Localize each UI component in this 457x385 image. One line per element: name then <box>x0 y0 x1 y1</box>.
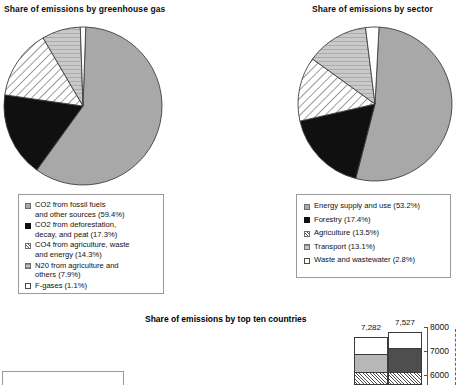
y-axis-label-6000: 6000 <box>430 370 449 380</box>
legend-item: F-gases (1.1%) <box>25 281 158 291</box>
bar-value-label: 7,527 <box>384 318 426 327</box>
pie-gas-svg <box>2 25 166 187</box>
legend-item: Forestry (17.4%) <box>304 215 445 225</box>
bar-segment-hatched <box>389 372 421 385</box>
legend-label: CO4 from agriculture, waste and energy (… <box>35 240 130 259</box>
legend-item: Agriculture (13.5%) <box>304 228 445 238</box>
y-axis-line <box>427 327 428 385</box>
legend-swatch-black-icon <box>304 217 310 223</box>
bar-stack-2[interactable] <box>388 332 422 385</box>
legend-label: CO2 from fossil fuels and other sources … <box>35 200 125 219</box>
legend-label: Forestry (17.4%) <box>314 215 371 225</box>
legend-swatch-hatched-icon <box>304 231 310 237</box>
panel-emissions-by-sector: Share of emissions by sector Energy supp… <box>288 0 457 290</box>
y-axis-label-7000: 7000 <box>430 346 449 356</box>
legend-item: CO4 from agriculture, waste and energy (… <box>25 240 158 259</box>
legend-label: N20 from agriculture and others (7.9%) <box>35 261 119 280</box>
bar-segment-hatched <box>355 372 387 385</box>
legend-item: CO2 from deforestation, decay, and peat … <box>25 220 158 239</box>
legend-swatch-dotted-icon <box>25 263 31 269</box>
legend-sector: Energy supply and use (53.2%) Forestry (… <box>296 194 451 278</box>
legend-label: CO2 from deforestation, decay, and peat … <box>35 220 117 239</box>
y-axis-label-8000: 8000 <box>430 322 449 332</box>
legend-swatch-hatched-icon <box>25 243 31 249</box>
bar-chart-title: Share of emissions by top ten countries <box>145 314 307 324</box>
legend-item: CO2 from fossil fuels and other sources … <box>25 200 158 219</box>
y-axis-tick-6000 <box>424 375 427 376</box>
bar-stack-1[interactable] <box>354 337 388 385</box>
bar-segment-light-gray <box>355 354 387 372</box>
legend-greenhouse-gas: CO2 from fossil fuels and other sources … <box>18 194 164 294</box>
legend-swatch-gray-icon <box>25 203 31 209</box>
pie-chart-sector <box>296 25 456 183</box>
pie-sector-svg <box>296 25 456 183</box>
legend-swatch-white-icon <box>304 258 310 264</box>
legend-item: Transport (13.1%) <box>304 242 445 252</box>
bar-segment-white <box>389 333 421 348</box>
legend-item: N20 from agriculture and others (7.9%) <box>25 261 158 280</box>
bar-segment-dark-gray <box>389 348 421 372</box>
panel-emissions-by-top-ten-countries: Share of emissions by top ten countries … <box>0 305 457 380</box>
pie-chart-greenhouse-gas <box>2 25 166 187</box>
panel-emissions-by-greenhouse-gas: Share of emissions by greenhouse gas CO2… <box>0 0 228 305</box>
legend-label: Energy supply and use (53.2%) <box>314 201 420 211</box>
plot-right-edge-dashed-line <box>455 329 456 385</box>
y-axis-tick-7000 <box>424 351 427 352</box>
cropped-legend-box <box>2 371 124 385</box>
legend-swatch-gray-icon <box>304 204 310 210</box>
legend-label: Agriculture (13.5%) <box>314 228 379 238</box>
legend-label: Waste and wastewater (2.8%) <box>314 255 415 265</box>
pie-gas-title: Share of emissions by greenhouse gas <box>4 4 165 14</box>
pie-sector-title: Share of emissions by sector <box>312 4 433 14</box>
legend-swatch-dotted-icon <box>304 244 310 250</box>
legend-swatch-white-icon <box>25 283 31 289</box>
legend-item: Waste and wastewater (2.8%) <box>304 255 445 265</box>
legend-label: Transport (13.1%) <box>314 242 375 252</box>
legend-label: F-gases (1.1%) <box>35 281 87 291</box>
legend-item: Energy supply and use (53.2%) <box>304 201 445 211</box>
bar-segment-white <box>355 338 387 354</box>
y-axis-tick-8000 <box>424 327 427 328</box>
legend-swatch-black-icon <box>25 223 31 229</box>
